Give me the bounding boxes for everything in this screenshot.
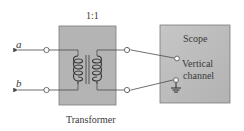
secondary-terminal-upper-circle [124,47,129,52]
scope-input-upper-circle [175,56,180,61]
transformer-caption: Transformer [66,115,116,125]
scope-title: Scope [183,34,207,44]
terminal-a-circle [44,47,49,52]
terminal-b-circle [44,87,49,92]
scope-input-label-line1: Vertical [182,59,213,69]
terminal-a-label: a [16,39,22,50]
scope-input-label-line2: channel [183,71,214,81]
scope-input-lower-circle [174,78,179,83]
transformer-ratio-label: 1:1 [86,11,99,21]
secondary-terminal-lower-circle [124,87,129,92]
transformer-box [59,26,116,105]
terminal-b-label: b [16,78,22,89]
